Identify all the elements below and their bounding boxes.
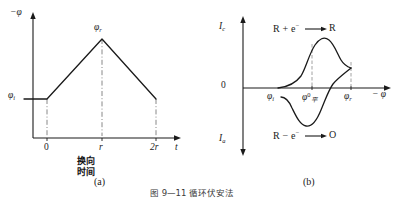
panel-a-xtick-2r: 2r	[150, 143, 158, 153]
panel-b-xtick-formal-potential: φ0平	[302, 92, 318, 104]
panel-b-origin-label: 0	[221, 81, 226, 91]
panel-a-plot	[0, 0, 205, 198]
panel-b-xtick-initial-potential: φi	[267, 92, 274, 103]
panel-a-caption: (a)	[94, 176, 105, 187]
panel-a-potential-waveform: −φ φi φr 0 r 2r t 换向 时间 (a)	[0, 0, 205, 198]
panel-a-xtick-r: r	[99, 143, 103, 153]
panel-a-x-axis	[33, 135, 181, 140]
panel-a-xtick-0: 0	[44, 143, 49, 153]
panel-a-initial-potential-label: φi	[8, 91, 15, 102]
figure-container: −φ φi φr 0 r 2r t 换向 时间 (a)	[0, 0, 411, 198]
panel-b-anodic-reaction-right: O	[329, 129, 336, 140]
panel-b-cathodic-reaction-left: R + e−	[273, 22, 300, 34]
panel-b-cathodic-reaction-right: R	[329, 22, 336, 33]
panel-a-x-axis-label: t	[175, 143, 178, 153]
panel-b-cathodic-current-label: Ic	[219, 22, 225, 33]
figure-caption: 图 9—11 循环伏安法	[150, 186, 234, 198]
panel-b-x-axis	[243, 85, 391, 90]
panel-b-cyclic-voltammogram: Ic 0 Ia φi φ0平 φr − φ R + e− R R − e− O …	[205, 0, 411, 198]
panel-b-xtick-reversal-potential: φr	[344, 92, 352, 103]
panel-a-y-axis-label: −φ	[10, 8, 22, 18]
panel-b-cathodic-scan-trace	[278, 38, 351, 88]
panel-a-y-axis	[30, 12, 35, 138]
panel-b-caption: (b)	[303, 176, 315, 187]
panel-a-reversal-time-annotation-line1: 换向	[77, 156, 95, 166]
panel-b-cathodic-arrow-icon	[305, 27, 327, 32]
panel-a-reversal-potential-label: φr	[94, 23, 102, 34]
panel-a-waveform-trace	[24, 39, 156, 99]
panel-b-y-axis	[240, 16, 245, 156]
panel-b-anodic-reaction-left: R − e−	[273, 129, 300, 141]
panel-a-droplines	[47, 39, 156, 136]
panel-b-anodic-current-label: Ia	[219, 134, 225, 145]
panel-b-anodic-arrow-icon	[305, 134, 327, 139]
panel-a-reversal-time-annotation-line2: 时间	[77, 167, 95, 177]
panel-b-x-axis-label: − φ	[372, 90, 386, 100]
